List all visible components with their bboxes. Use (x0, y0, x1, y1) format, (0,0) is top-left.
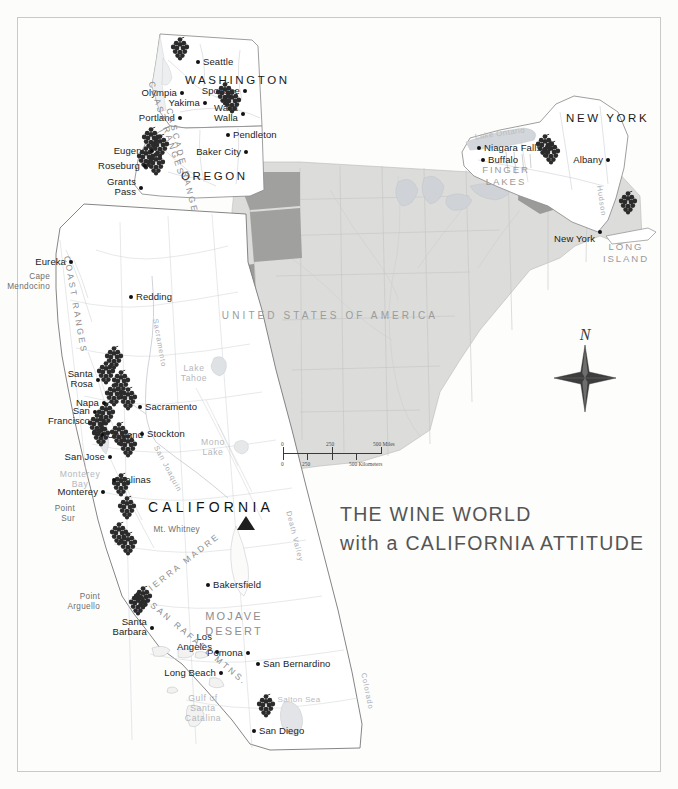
city-dot (150, 149, 154, 153)
city-dot (244, 150, 248, 154)
city-dot (93, 410, 97, 414)
city-dot (606, 158, 610, 162)
scale-miles-max: 500 Miles (373, 441, 395, 447)
title-line-2: with a CALIFORNIA ATTITUDE (340, 529, 644, 558)
scale-miles-0: 0 (281, 441, 284, 447)
city-dot (196, 60, 200, 64)
map-title: THE WINE WORLD with a CALIFORNIA ATTITUD… (340, 500, 644, 559)
scale-bar: 0 250 500 Miles 0 250 500 Kilometers (281, 441, 384, 471)
city-dot (129, 295, 133, 299)
city-dot (138, 405, 142, 409)
vineyard-grape-icon (619, 191, 637, 214)
city-dot (180, 91, 184, 95)
scale-km-0: 0 (281, 461, 284, 467)
vineyard-grape-icon (119, 532, 137, 555)
city-dot (108, 455, 112, 459)
vineyard-grape-icon (118, 496, 136, 519)
vineyard-grape-icon (257, 694, 275, 717)
city-dot (256, 662, 260, 666)
vineyard-grape-icon (119, 434, 137, 457)
vineyard-grape-icon (171, 37, 189, 60)
city-dot (481, 158, 485, 162)
title-line-1: THE WINE WORLD (340, 500, 644, 529)
map-page: N UNITED STATES OF AMERICAWASHINGTONOREG… (0, 0, 678, 789)
city-dot (203, 101, 207, 105)
city-dot (246, 651, 250, 655)
city-dot (219, 671, 223, 675)
city-dot (252, 729, 256, 733)
city-dot (243, 89, 247, 93)
city-dot (69, 260, 73, 264)
city-dot (140, 432, 144, 436)
city-dot (598, 230, 602, 234)
city-dot (226, 133, 230, 137)
city-dot (96, 378, 100, 382)
vineyard-markers-layer (0, 0, 678, 789)
scale-km-max: 500 Kilometers (349, 461, 382, 467)
city-dot (215, 650, 219, 654)
city-dot (206, 583, 210, 587)
vineyard-grape-icon (112, 473, 130, 496)
vineyard-grape-icon (542, 141, 560, 164)
scale-miles-mid: 250 (326, 441, 334, 447)
city-dot (143, 164, 147, 168)
city-dot (139, 186, 143, 190)
city-dot (150, 626, 154, 630)
scale-km-mid: 250 (302, 461, 310, 467)
city-dot (102, 401, 106, 405)
city-dot (241, 112, 245, 116)
city-dot (178, 116, 182, 120)
city-dot (101, 490, 105, 494)
city-dot (477, 146, 481, 150)
vineyard-grape-icon (223, 90, 241, 113)
city-dot (112, 478, 116, 482)
vineyard-grape-icon (105, 346, 123, 369)
city-dot (100, 433, 104, 437)
